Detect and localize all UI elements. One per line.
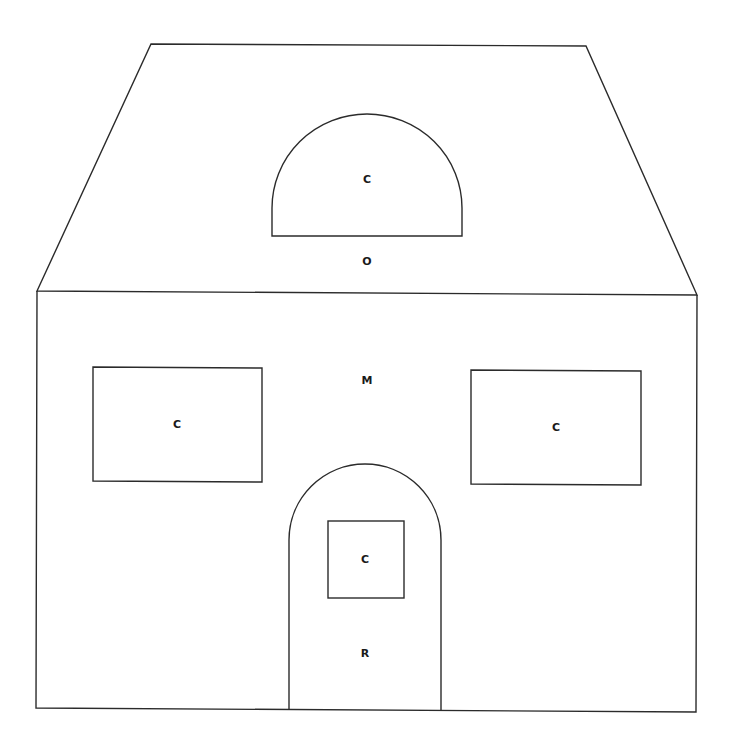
- wall-label: M: [362, 374, 373, 387]
- right-window: C: [471, 370, 641, 485]
- roof: O: [37, 44, 697, 295]
- dormer-window-label: C: [363, 173, 371, 186]
- door-window-label: C: [361, 553, 369, 566]
- left-window-label: C: [173, 418, 181, 431]
- door-label: R: [361, 647, 370, 660]
- left-window: C: [93, 367, 262, 482]
- roof-label: O: [362, 255, 371, 268]
- dormer-window: C: [272, 114, 462, 236]
- door-outline: [289, 464, 441, 711]
- right-window-label: C: [552, 421, 560, 434]
- door-window: C: [328, 521, 404, 598]
- house-diagram: O C M C C R C: [0, 0, 734, 746]
- door: R: [289, 464, 441, 711]
